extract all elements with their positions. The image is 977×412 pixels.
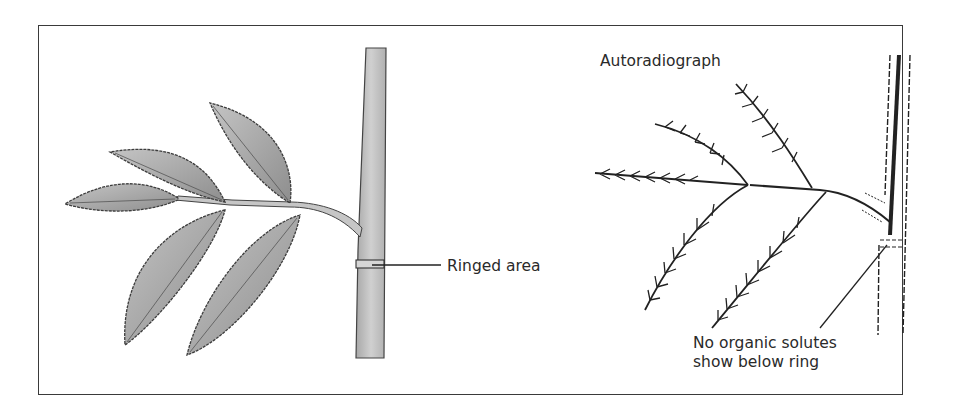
- no-solutes-label-line1: No organic solutes: [693, 334, 837, 353]
- autoradiograph-illustration: [595, 55, 910, 335]
- no-solutes-leader: [820, 245, 887, 328]
- ringed-area-label: Ringed area: [447, 257, 541, 276]
- main-stem: [356, 48, 386, 358]
- figure: Ringed area Autoradiograph No organic so…: [0, 0, 977, 412]
- ringed-stem-illustration: [65, 48, 386, 358]
- no-solutes-label-line2: show below ring: [693, 353, 819, 372]
- autoradiograph-label: Autoradiograph: [600, 52, 721, 71]
- ring-band: [356, 260, 384, 268]
- leaflet-1: [65, 184, 178, 211]
